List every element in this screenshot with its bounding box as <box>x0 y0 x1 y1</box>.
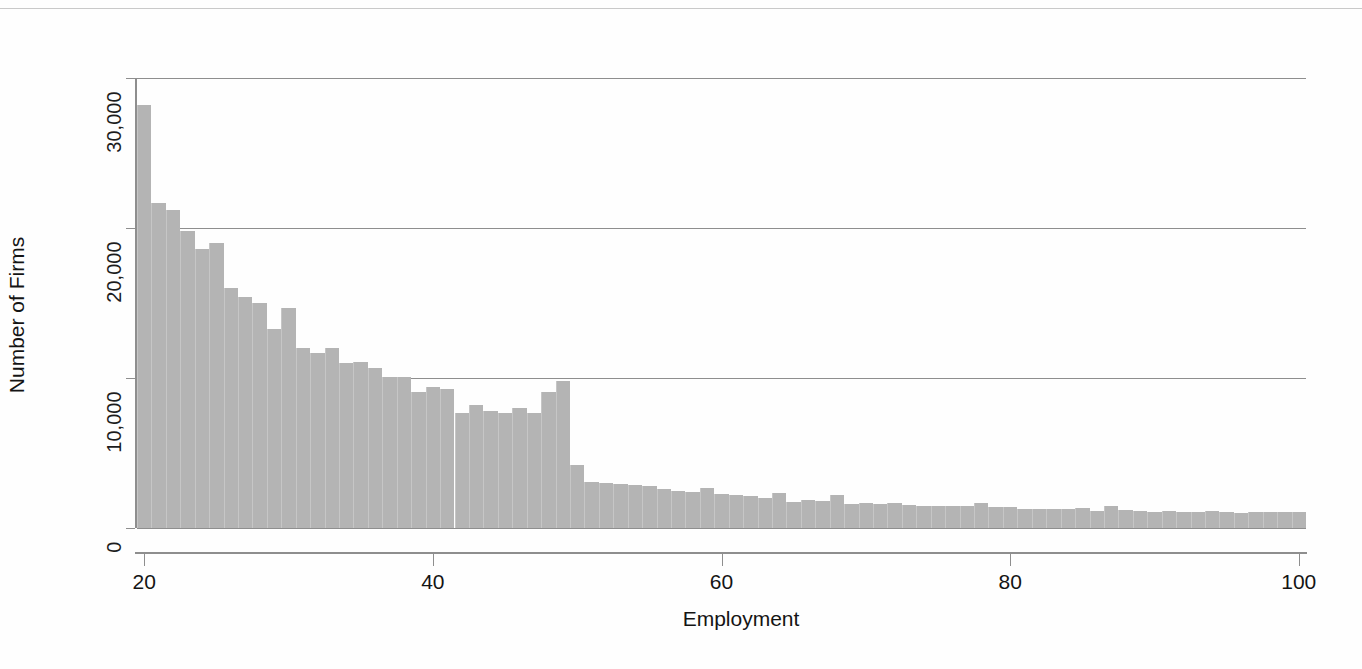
histogram-bar <box>397 377 411 529</box>
histogram-bar <box>1162 511 1176 528</box>
x-tick-mark <box>1299 554 1300 566</box>
y-tick-mark <box>126 378 135 379</box>
histogram-bar <box>1104 506 1118 529</box>
plot-area <box>137 78 1306 528</box>
histogram-bar <box>137 105 151 528</box>
histogram-bar <box>916 506 930 529</box>
histogram-bar <box>426 387 440 528</box>
x-tick-mark <box>144 554 145 566</box>
histogram-bar <box>440 389 454 529</box>
histogram-bar <box>180 231 194 528</box>
histogram-bar <box>541 392 555 529</box>
histogram-bar <box>945 506 959 528</box>
histogram-bar <box>613 484 627 528</box>
histogram-bar <box>1061 509 1075 528</box>
histogram-bar <box>815 501 829 528</box>
histogram-bar <box>1032 509 1046 529</box>
histogram-bar <box>1248 512 1262 529</box>
histogram-bar <box>758 498 772 528</box>
histogram-bar <box>1191 512 1205 528</box>
histogram-bar <box>671 491 685 529</box>
histogram-bar <box>902 505 916 528</box>
histogram-bar <box>1277 512 1291 529</box>
y-tick-mark <box>126 78 135 79</box>
x-axis-title: Employment <box>0 607 1362 631</box>
histogram-bars <box>137 78 1306 528</box>
scan-artifact-line <box>0 8 1362 9</box>
x-tick-label: 60 <box>710 570 733 594</box>
x-tick-label: 100 <box>1281 570 1316 594</box>
histogram-bar <box>743 496 757 528</box>
histogram-bar <box>195 249 209 528</box>
histogram-bar <box>209 243 223 528</box>
histogram-bar <box>1046 509 1060 528</box>
y-tick-label: 10,000 <box>103 392 126 453</box>
y-axis-title: Number of Firms <box>5 165 29 465</box>
histogram-bar <box>556 381 570 528</box>
x-tick-mark <box>722 554 723 566</box>
histogram-bar <box>700 488 714 529</box>
histogram-bar <box>469 405 483 528</box>
y-tick-label: 0 <box>103 542 126 553</box>
histogram-bar <box>325 348 339 528</box>
histogram-bar <box>224 288 238 528</box>
histogram-bar <box>368 368 382 529</box>
gridline <box>137 528 1306 529</box>
histogram-bar <box>339 363 353 528</box>
histogram-bar <box>628 485 642 529</box>
histogram-bar <box>483 411 497 528</box>
histogram-bar <box>873 504 887 528</box>
histogram-bar <box>1017 509 1031 529</box>
x-tick-label: 80 <box>998 570 1021 594</box>
x-tick-label: 20 <box>133 570 156 594</box>
histogram-bar <box>1219 512 1233 529</box>
histogram-bar <box>1133 511 1147 528</box>
histogram-bar <box>570 465 584 528</box>
y-tick-label: 20,000 <box>103 242 126 303</box>
histogram-bar <box>382 377 396 529</box>
histogram-bar <box>411 392 425 529</box>
histogram-bar <box>1234 513 1248 528</box>
histogram-figure: Number of Firms 010,00020,00030,000 2040… <box>0 0 1362 669</box>
histogram-bar <box>527 413 541 529</box>
histogram-bar <box>310 353 324 529</box>
histogram-bar <box>685 492 699 528</box>
histogram-bar <box>1292 512 1306 528</box>
histogram-bar <box>151 203 165 529</box>
histogram-bar <box>931 506 945 529</box>
histogram-bar <box>238 297 252 528</box>
histogram-bar <box>1205 511 1219 528</box>
histogram-bar <box>729 495 743 528</box>
histogram-bar <box>859 503 873 529</box>
histogram-bar <box>887 503 901 529</box>
histogram-bar <box>296 348 310 528</box>
histogram-bar <box>1003 507 1017 528</box>
histogram-bar <box>642 486 656 528</box>
y-tick-label: 30,000 <box>103 92 126 153</box>
histogram-bar <box>584 482 598 529</box>
histogram-bar <box>353 362 367 529</box>
histogram-bar <box>267 329 281 529</box>
histogram-bar <box>1118 510 1132 528</box>
x-axis-title-text: Employment <box>683 607 800 630</box>
histogram-bar <box>599 483 613 528</box>
x-tick-mark <box>433 554 434 566</box>
histogram-bar <box>974 503 988 529</box>
x-tick-label: 40 <box>421 570 444 594</box>
y-tick-mark <box>126 528 135 529</box>
histogram-bar <box>1075 508 1089 528</box>
histogram-bar <box>512 408 526 528</box>
y-tick-mark <box>126 228 135 229</box>
x-tick-mark <box>1010 554 1011 566</box>
histogram-bar <box>1263 512 1277 528</box>
histogram-bar <box>252 303 266 528</box>
histogram-bar <box>844 504 858 528</box>
histogram-bar <box>1147 512 1161 529</box>
histogram-bar <box>1090 511 1104 528</box>
histogram-bar <box>1176 512 1190 529</box>
histogram-bar <box>988 507 1002 528</box>
histogram-bar <box>801 500 815 529</box>
histogram-bar <box>281 308 295 529</box>
histogram-bar <box>498 413 512 529</box>
histogram-bar <box>830 495 844 528</box>
